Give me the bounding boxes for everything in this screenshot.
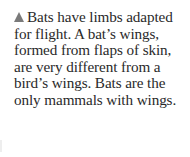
figure-caption: Bats have limbs adapted for flight. A ba… [14, 9, 188, 109]
caption-text: Bats have limbs adapted for flight. A ba… [14, 8, 176, 108]
page-edge-divider [0, 140, 2, 152]
triangle-up-icon [14, 12, 24, 22]
